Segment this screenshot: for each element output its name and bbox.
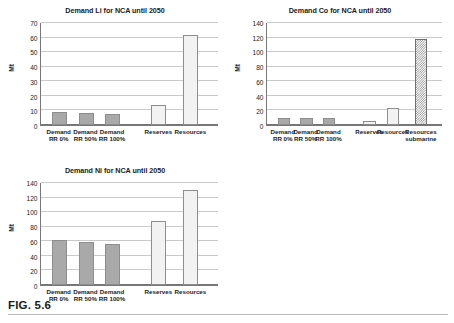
plot-wrap: 020406080100120140 Demand RR 0%Demand RR… [40,183,218,286]
y-tick-label: 140 [252,20,266,27]
y-tick-label: 60 [30,34,40,41]
bar [183,35,198,125]
chart-demand-ni: Demand Ni for NCA until 2050 Mt 02040608… [4,166,226,318]
x-tick-label: Resources [377,128,409,136]
bar [278,118,290,125]
chart-title: Demand Li for NCA until 2050 [4,6,226,15]
y-axis-label: Mt [234,64,241,72]
figure-page: Demand Li for NCA until 2050 Mt 01020304… [0,0,454,323]
bar [415,39,427,125]
x-tick-label: Demand RR 0% [46,128,70,143]
caption-divider [8,314,448,315]
x-tick-label: Reserves [145,288,173,296]
bars [41,23,218,125]
x-tick-label: Demand RR 100% [99,128,125,143]
y-tick-label: 10 [30,108,40,115]
x-tick-label: Demand RR 50% [73,128,97,143]
plot-wrap: 020406080100120140 Demand RR 0%Demand RR… [266,23,442,126]
y-tick-label: 100 [252,49,266,56]
x-tick-label: Demand RR 50% [293,128,317,143]
bar [323,118,335,125]
y-tick-label: 50 [30,49,40,56]
y-tick-label: 70 [30,20,40,27]
plot-wrap: 010203040506070 Demand RR 0%Demand RR 50… [40,23,218,126]
y-tick-label: 60 [30,238,40,245]
bars [267,23,442,125]
chart-title: Demand Co for NCA until 2050 [228,6,452,15]
bar [79,242,94,285]
x-tick-labels: Demand RR 0%Demand RR 50%Demand RR 100%R… [40,126,218,148]
x-tick-label: Resources [175,288,207,296]
bar [105,114,120,125]
y-tick-label: 140 [26,180,40,187]
bar [183,190,198,285]
x-tick-label: Demand RR 0% [271,128,295,143]
y-tick-label: 40 [256,93,266,100]
plot-area [40,23,218,126]
y-tick-label: 20 [256,108,266,115]
y-tick-label: 20 [30,268,40,275]
y-tick-label: 120 [252,34,266,41]
x-tick-label: Resources submarine [405,128,437,143]
bar [387,108,399,125]
bar [363,121,375,125]
y-tick-label: 80 [256,64,266,71]
y-axis-label: Mt [8,224,15,232]
bar [151,105,166,125]
x-tick-labels: Demand RR 0%Demand RR 50%Demand RR 100%R… [266,126,442,148]
bar [79,113,94,125]
chart-demand-li: Demand Li for NCA until 2050 Mt 01020304… [4,6,226,158]
bar [151,221,166,285]
bars [41,183,218,285]
y-tick-label: 80 [30,224,40,231]
x-tick-label: Demand RR 100% [99,288,125,303]
figure-caption: FIG. 5.6 [8,299,51,311]
x-tick-label: Demand RR 100% [315,128,341,143]
chart-demand-co: Demand Co for NCA until 2050 Mt 02040608… [228,6,452,166]
x-tick-labels: Demand RR 0%Demand RR 50%Demand RR 100%R… [40,286,218,308]
x-tick-label: Demand RR 50% [73,288,97,303]
y-tick-label: 100 [26,209,40,216]
y-tick-label: 30 [30,78,40,85]
bar [52,240,67,285]
plot-area [266,23,442,126]
x-tick-label: Reserves [145,128,173,136]
bar [52,112,67,125]
y-tick-label: 120 [26,194,40,201]
chart-title: Demand Ni for NCA until 2050 [4,166,226,175]
y-tick-label: 40 [30,64,40,71]
bar [300,118,312,125]
y-tick-label: 20 [30,93,40,100]
bar [105,244,120,285]
y-axis-label: Mt [8,64,15,72]
x-tick-label: Resources [175,128,207,136]
y-tick-label: 40 [30,253,40,260]
y-tick-label: 60 [256,78,266,85]
plot-area [40,183,218,286]
